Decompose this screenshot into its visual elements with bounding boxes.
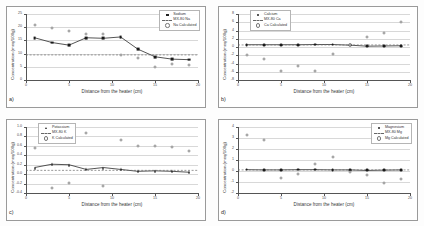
legend-label: MX-80 Na bbox=[173, 18, 190, 22]
legend-open-circle-icon bbox=[253, 23, 263, 27]
legend-dashed-line-icon bbox=[253, 20, 263, 21]
data-point bbox=[314, 43, 317, 46]
data-point bbox=[262, 168, 265, 171]
data-point bbox=[119, 36, 122, 39]
data-point bbox=[188, 150, 191, 153]
data-point bbox=[119, 139, 122, 142]
data-point bbox=[297, 168, 300, 171]
data-point bbox=[366, 36, 369, 39]
data-point bbox=[297, 172, 300, 175]
data-point bbox=[366, 174, 369, 177]
data-point bbox=[314, 70, 317, 73]
legend-item[interactable]: Mg Calculated bbox=[374, 136, 409, 141]
data-point bbox=[171, 58, 174, 61]
data-point bbox=[366, 169, 369, 172]
data-point bbox=[245, 133, 248, 136]
legend-label: Magnesium bbox=[385, 126, 404, 130]
chart-legend: SodiumMX-80 NaNa Calculated bbox=[159, 10, 200, 31]
data-point bbox=[331, 52, 334, 55]
data-point bbox=[383, 31, 386, 34]
legend-item[interactable]: K Calculated bbox=[41, 136, 73, 141]
series-lines bbox=[0, 113, 212, 226]
data-point bbox=[280, 176, 283, 179]
figure-caption bbox=[0, 216, 424, 226]
legend-dashed-line-icon bbox=[41, 133, 51, 134]
legend-label: Mg Calculated bbox=[385, 137, 409, 141]
data-point bbox=[280, 168, 283, 171]
data-point bbox=[85, 36, 88, 39]
data-point bbox=[136, 144, 139, 147]
series-lines bbox=[212, 0, 424, 113]
legend-triangle-icon bbox=[41, 127, 51, 129]
data-point bbox=[297, 64, 300, 67]
data-point bbox=[245, 43, 248, 46]
data-point bbox=[400, 168, 403, 171]
data-point bbox=[154, 144, 157, 147]
data-point bbox=[119, 53, 122, 56]
data-point bbox=[154, 169, 156, 172]
data-point bbox=[400, 178, 403, 181]
data-point bbox=[68, 44, 71, 47]
legend-label: MX-80 Mg bbox=[385, 131, 402, 135]
data-point bbox=[154, 55, 157, 58]
data-point bbox=[383, 45, 386, 48]
data-point bbox=[85, 32, 88, 35]
data-point bbox=[314, 168, 317, 171]
data-point bbox=[33, 36, 36, 39]
data-point bbox=[400, 21, 403, 24]
data-point bbox=[331, 43, 334, 46]
data-point bbox=[51, 163, 53, 166]
data-point bbox=[120, 168, 122, 171]
legend-open-circle-icon bbox=[162, 23, 172, 27]
data-point bbox=[154, 65, 157, 68]
data-point bbox=[85, 168, 87, 171]
data-point bbox=[136, 57, 139, 60]
legend-open-circle-icon bbox=[41, 136, 51, 140]
chart-panel-b: 05101520-8-6-4-202468Distance from the h… bbox=[212, 0, 424, 113]
data-point bbox=[188, 58, 191, 61]
data-point bbox=[348, 170, 351, 173]
chart-panel-d: 05101520-2-101234Distance from the heate… bbox=[212, 113, 424, 226]
data-point bbox=[171, 170, 173, 173]
data-point bbox=[136, 48, 139, 51]
chart-panel-a: 051015200510152025Distance from the heat… bbox=[0, 0, 212, 113]
figure-container: 051015200510152025Distance from the heat… bbox=[0, 0, 424, 226]
data-point bbox=[50, 41, 53, 44]
legend-dashed-line-icon bbox=[374, 133, 384, 134]
data-point bbox=[68, 163, 70, 166]
legend-dot-icon bbox=[374, 127, 384, 130]
data-point bbox=[262, 58, 265, 61]
data-point bbox=[383, 169, 386, 172]
data-point bbox=[262, 139, 265, 142]
legend-label: Calcium bbox=[264, 13, 277, 17]
data-point bbox=[188, 171, 190, 174]
data-point bbox=[33, 146, 36, 149]
data-point bbox=[33, 23, 36, 26]
data-point bbox=[314, 162, 317, 165]
data-point bbox=[50, 187, 53, 190]
legend-item[interactable]: Na Calculated bbox=[162, 23, 196, 28]
data-point bbox=[102, 33, 105, 36]
data-point bbox=[171, 63, 174, 66]
data-point bbox=[188, 63, 191, 66]
data-point bbox=[348, 43, 351, 46]
data-point bbox=[102, 185, 105, 188]
legend-dashed-line-icon bbox=[162, 20, 172, 21]
data-point bbox=[331, 155, 334, 158]
legend-square-icon bbox=[162, 14, 172, 17]
data-point bbox=[34, 166, 36, 169]
legend-label: Potassium bbox=[52, 126, 69, 130]
data-point bbox=[297, 43, 300, 46]
legend-label: Ca Calculated bbox=[264, 24, 287, 28]
data-point bbox=[102, 37, 105, 40]
data-point bbox=[171, 146, 174, 149]
data-point bbox=[50, 26, 53, 29]
chart-legend: CalciumMX-80 CaCa Calculated bbox=[250, 10, 291, 31]
data-point bbox=[383, 182, 386, 185]
data-point bbox=[280, 43, 283, 46]
legend-item[interactable]: Ca Calculated bbox=[253, 23, 287, 28]
legend-label: Sodium bbox=[173, 13, 186, 17]
legend-dot-icon bbox=[253, 14, 263, 17]
data-point bbox=[85, 131, 88, 134]
data-point bbox=[245, 168, 248, 171]
